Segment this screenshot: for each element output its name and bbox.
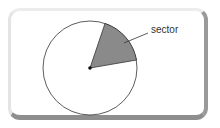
label-leader-line [124, 33, 148, 43]
sector-diagram: sector [0, 0, 220, 128]
sector-label: sector [151, 24, 179, 35]
center-point [88, 66, 92, 70]
